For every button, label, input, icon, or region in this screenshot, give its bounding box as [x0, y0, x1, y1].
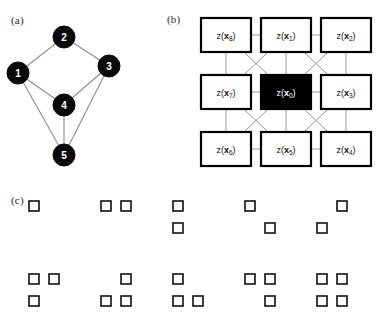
grid-cell-group: z(x8)z(x1)z(x2)z(x7)z(x0)z(x3)z(x6)z(x5)…: [201, 18, 371, 166]
grid-cell-x7[interactable]: z(x7): [201, 75, 251, 109]
config-pattern-triple-no-tl[interactable]: [101, 274, 131, 306]
config-square-3-tl: [173, 201, 183, 211]
config-square-1-tl: [29, 201, 39, 211]
config-square-10-tr: [337, 274, 347, 284]
graph-svg: 12345: [0, 8, 190, 168]
config-pattern-triple-no-bl[interactable]: [245, 274, 275, 306]
grid-cell-label-cell-x8: z(x8): [216, 31, 235, 42]
grid-cell-label-cell-x3: z(x3): [336, 88, 355, 99]
config-square-6-bl: [29, 296, 39, 306]
cell-prefix: z(: [216, 88, 224, 98]
config-square-5-tr: [337, 201, 347, 211]
grid-cell-x2[interactable]: z(x2): [321, 18, 371, 52]
config-square-6-tr: [49, 274, 59, 284]
config-pattern-group: [29, 201, 347, 306]
config-square-4-br: [265, 223, 275, 233]
cell-suffix: ): [353, 88, 356, 98]
cell-suffix: ): [233, 31, 236, 41]
cell-prefix: z(: [276, 88, 284, 98]
grid-cell-label-cell-x4: z(x4): [336, 145, 355, 156]
config-pattern-triple-no-br[interactable]: [29, 274, 59, 306]
config-square-9-tr: [265, 274, 275, 284]
graph-node-3[interactable]: 3: [98, 55, 120, 77]
config-pattern-triple-no-tr[interactable]: [173, 274, 203, 306]
panel-a-graph: 12345: [0, 8, 190, 168]
graph-node-label-4: 4: [61, 100, 67, 111]
config-pattern-quad[interactable]: [317, 274, 347, 306]
graph-node-2[interactable]: 2: [53, 26, 75, 48]
config-pattern-antidiagonal[interactable]: [317, 201, 347, 233]
patterns-svg: [0, 186, 380, 317]
config-square-10-br: [337, 296, 347, 306]
config-square-7-br: [121, 296, 131, 306]
graph-node-label-2: 2: [61, 32, 67, 43]
config-square-4-tl: [245, 201, 255, 211]
cell-suffix: ): [233, 88, 236, 98]
graph-node-label-3: 3: [106, 61, 112, 72]
config-square-10-tl: [317, 274, 327, 284]
grid-cell-x1[interactable]: z(x1): [261, 18, 311, 52]
cell-suffix: ): [293, 145, 296, 155]
config-square-10-bl: [317, 296, 327, 306]
grid-cell-x6[interactable]: z(x6): [201, 132, 251, 166]
config-square-6-tl: [29, 274, 39, 284]
config-square-2-tr: [121, 201, 131, 211]
figure-container: (a) (b) (c) 12345 z(x8)z(x1)z(x2)z(x7)z(…: [0, 0, 380, 317]
config-square-8-tl: [173, 274, 183, 284]
cell-suffix: ): [293, 31, 296, 41]
cell-prefix: z(: [336, 31, 344, 41]
cell-prefix: z(: [336, 88, 344, 98]
cell-prefix: z(: [216, 145, 224, 155]
graph-node-label-1: 1: [15, 68, 21, 79]
neighbourhood-svg: z(x8)z(x1)z(x2)z(x7)z(x0)z(x3)z(x6)z(x5)…: [196, 14, 376, 174]
config-square-8-bl: [173, 296, 183, 306]
config-pattern-horizontal-pair[interactable]: [101, 201, 131, 211]
config-square-7-bl: [101, 296, 111, 306]
config-square-5-bl: [317, 223, 327, 233]
config-square-2-tl: [101, 201, 111, 211]
config-pattern-vertical-pair[interactable]: [173, 201, 183, 233]
graph-node-group: 12345: [7, 26, 120, 166]
panel-b-neighbourhood: z(x8)z(x1)z(x2)z(x7)z(x0)z(x3)z(x6)z(x5)…: [196, 14, 376, 174]
grid-cell-label-cell-x1: z(x1): [276, 31, 295, 42]
graph-node-label-5: 5: [61, 150, 67, 161]
cell-prefix: z(: [276, 31, 284, 41]
graph-node-4[interactable]: 4: [53, 94, 75, 116]
cell-suffix: ): [353, 145, 356, 155]
cell-suffix: ): [233, 145, 236, 155]
grid-cell-x0[interactable]: z(x0): [261, 75, 311, 109]
config-pattern-diagonal[interactable]: [245, 201, 275, 233]
grid-cell-x5[interactable]: z(x5): [261, 132, 311, 166]
grid-cell-label-cell-x6: z(x6): [216, 145, 235, 156]
cell-suffix: ): [293, 88, 296, 98]
config-square-7-tr: [121, 274, 131, 284]
grid-cell-x4[interactable]: z(x4): [321, 132, 371, 166]
config-pattern-single[interactable]: [29, 201, 39, 211]
grid-cell-x8[interactable]: z(x8): [201, 18, 251, 52]
grid-cell-label-cell-x0: z(x0): [276, 88, 295, 99]
grid-cell-label-cell-x7: z(x7): [216, 88, 235, 99]
config-square-3-bl: [173, 223, 183, 233]
graph-node-5[interactable]: 5: [53, 144, 75, 166]
config-square-9-tl: [245, 274, 255, 284]
graph-node-1[interactable]: 1: [7, 62, 29, 84]
cell-prefix: z(: [336, 145, 344, 155]
cell-prefix: z(: [216, 31, 224, 41]
cell-suffix: ): [353, 31, 356, 41]
config-square-8-br: [193, 296, 203, 306]
config-square-9-br: [265, 296, 275, 306]
panel-c-patterns: [0, 186, 380, 317]
grid-cell-label-cell-x5: z(x5): [276, 145, 295, 156]
grid-cell-x3[interactable]: z(x3): [321, 75, 371, 109]
cell-prefix: z(: [276, 145, 284, 155]
grid-cell-label-cell-x2: z(x2): [336, 31, 355, 42]
